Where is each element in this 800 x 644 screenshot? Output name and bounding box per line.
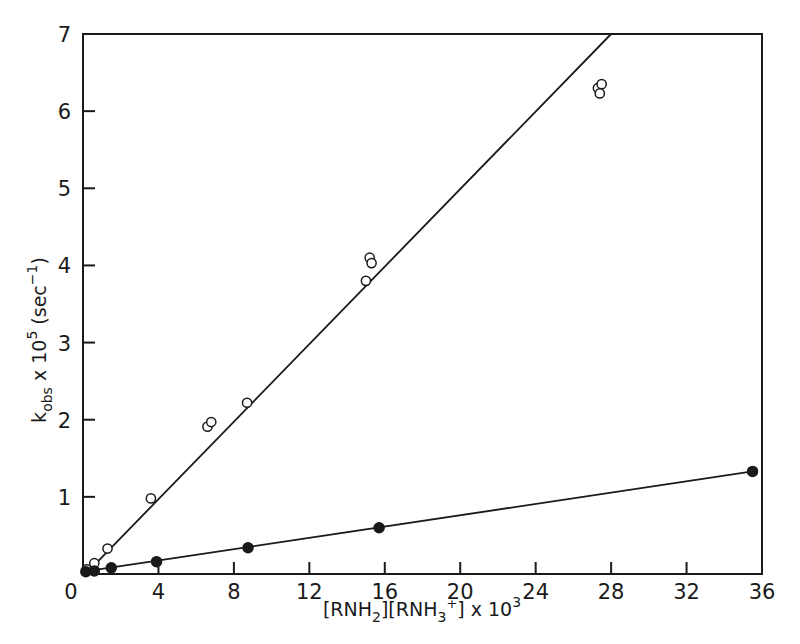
axis-ticks: 048121620242832361234567 (58, 23, 776, 604)
kinetics-scatter-chart: 048121620242832361234567 [RNH2][RNH3+] x… (0, 0, 800, 644)
open-circle-point (207, 417, 216, 426)
x-tick-label: 28 (598, 580, 625, 604)
open-circle-point (146, 494, 155, 503)
x-tick-label: 24 (522, 580, 549, 604)
y-tick-label: 6 (58, 100, 71, 124)
plot-frame (83, 34, 762, 574)
filled-circle-point (152, 557, 162, 567)
fit-line (89, 471, 753, 571)
x-tick-label: 8 (227, 580, 240, 604)
data-points (81, 80, 758, 577)
y-tick-label: 7 (58, 23, 71, 47)
open-circle-point (597, 80, 606, 89)
x-tick-label: 12 (296, 580, 323, 604)
y-axis-label: kobs x 105 (sec−1) (24, 257, 55, 423)
filled-circle-point (374, 523, 384, 533)
filled-circle-point (243, 543, 253, 553)
x-tick-label: 36 (749, 580, 776, 604)
y-tick-label: 5 (58, 177, 71, 201)
y-tick-label: 3 (58, 332, 71, 356)
filled-circle-point (748, 466, 758, 476)
x-axis-label: [RNH2][RNH3+] x 103 (323, 594, 521, 625)
y-tick-label: 4 (58, 254, 71, 278)
x-tick-label: 4 (152, 580, 165, 604)
open-circle-point (367, 259, 376, 268)
open-circle-point (103, 544, 112, 553)
x-tick-label: 32 (673, 580, 700, 604)
plot-border (83, 34, 762, 574)
open-circle-point (242, 398, 251, 407)
x-tick-label: 0 (64, 580, 77, 604)
fit-lines (89, 34, 753, 571)
y-tick-label: 1 (58, 486, 71, 510)
filled-circle-point (89, 566, 99, 576)
open-circle-point (361, 276, 370, 285)
filled-circle-point (106, 563, 116, 573)
y-tick-label: 2 (58, 409, 71, 433)
fit-line (89, 34, 611, 571)
open-circle-point (595, 89, 604, 98)
